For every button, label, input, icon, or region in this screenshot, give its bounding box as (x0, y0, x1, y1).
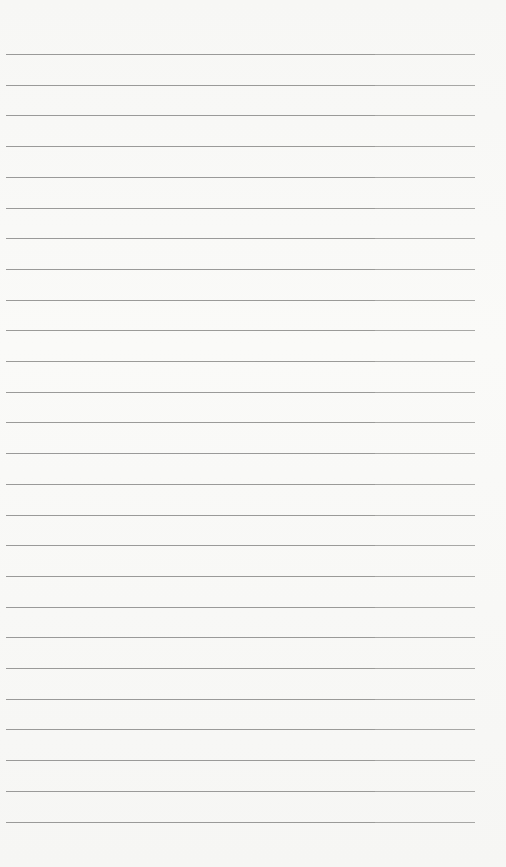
ruled-line (6, 484, 475, 485)
ruled-line (6, 668, 475, 669)
ruled-line (6, 422, 475, 423)
ruled-line (6, 791, 475, 792)
ruled-line (6, 300, 475, 301)
ruled-line (6, 269, 475, 270)
ruled-line (6, 607, 475, 608)
ruled-line (6, 85, 475, 86)
ruled-line (6, 177, 475, 178)
ruled-line (6, 330, 475, 331)
ruled-line (6, 238, 475, 239)
ruled-line (6, 453, 475, 454)
ruled-line (6, 729, 475, 730)
ruled-line (6, 760, 475, 761)
ruled-line (6, 637, 475, 638)
ruled-line (6, 545, 475, 546)
ruled-line (6, 361, 475, 362)
ruled-line (6, 515, 475, 516)
lined-paper (0, 0, 506, 867)
ruled-line (6, 54, 475, 55)
ruled-line (6, 392, 475, 393)
ruled-line (6, 115, 475, 116)
ruled-line (6, 146, 475, 147)
ruled-line (6, 576, 475, 577)
ruled-line (6, 822, 475, 823)
ruled-line (6, 699, 475, 700)
ruled-line (6, 208, 475, 209)
